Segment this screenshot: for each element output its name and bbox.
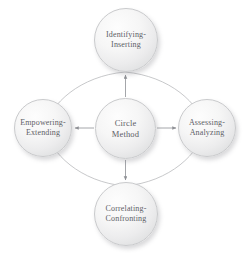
node-circle-method[interactable]: Circle Method [95,98,156,159]
node-label-correlating-confronting: Correlating- Confronting [106,204,147,224]
node-empowering-extending[interactable]: Empowering- Extending [14,99,72,157]
node-identifying-inserting[interactable]: Identifying- Inserting [94,8,158,72]
node-label-circle-method: Circle Method [112,118,139,139]
node-correlating-confronting[interactable]: Correlating- Confronting [94,182,158,246]
node-label-empowering-extending: Empowering- Extending [20,118,66,138]
node-label-assessing-analyzing: Assessing- Analyzing [189,118,225,138]
circle-method-diagram: Identifying- Inserting Assessing- Analyz… [0,0,249,253]
node-label-identifying-inserting: Identifying- Inserting [106,30,146,50]
node-assessing-analyzing[interactable]: Assessing- Analyzing [178,99,236,157]
